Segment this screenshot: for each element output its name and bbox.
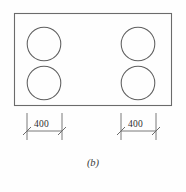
dimension-right-label: 400 (128, 120, 143, 130)
dimension-left-label: 400 (34, 120, 49, 130)
burner-top-left-circle (27, 27, 61, 61)
burner-top-right-circle (121, 27, 155, 61)
burner-bottom-right-circle (121, 66, 155, 100)
figure-container: 400 400 (b) (0, 0, 186, 192)
burner-bottom-left-circle (27, 66, 61, 100)
figure-caption: (b) (0, 158, 186, 169)
